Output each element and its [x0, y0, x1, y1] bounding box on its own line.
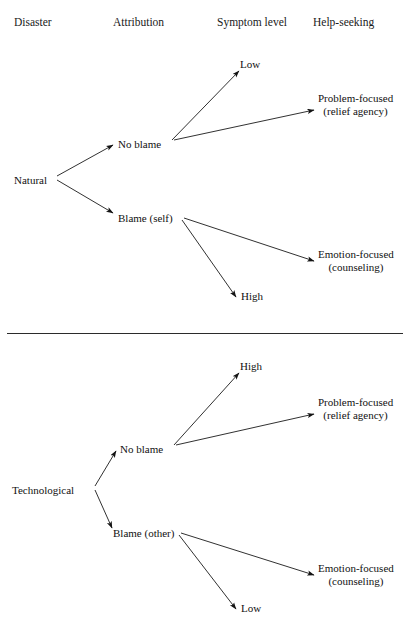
node-emotion-focused-2-line2: (counseling) [318, 575, 394, 588]
node-symptom-low: Low [240, 58, 260, 71]
edge-technological-to-blame-other [95, 490, 112, 528]
edge-no-blame-to-high [174, 373, 239, 445]
node-blame-self: Blame (self) [118, 212, 173, 225]
node-problem-focused-line1: Problem-focused [318, 92, 393, 104]
column-header-symptom-level: Symptom level [217, 16, 287, 29]
node-emotion-focused-line1: Emotion-focused [318, 248, 394, 260]
edge-blame-other-to-emotion-focused [181, 533, 314, 575]
column-header-disaster: Disaster [14, 16, 52, 29]
edge-blame-self-to-high [182, 220, 236, 297]
edge-natural-to-blame-self [57, 180, 113, 213]
scan-artifact-strip [0, 0, 410, 7]
edge-natural-to-no-blame [57, 145, 113, 176]
node-symptom-high: High [241, 290, 263, 303]
edge-technological-to-no-blame [95, 451, 116, 486]
column-header-help-seeking: Help-seeking [313, 16, 374, 29]
node-emotion-focused: Emotion-focused (counseling) [318, 248, 394, 273]
node-no-blame-2: No blame [120, 443, 163, 456]
node-symptom-low-2: Low [241, 602, 261, 615]
node-emotion-focused-2-line1: Emotion-focused [318, 562, 394, 574]
node-natural: Natural [14, 174, 47, 187]
node-problem-focused-2: Problem-focused (relief agency) [318, 396, 393, 421]
edge-no-blame-to-problem-focused [174, 110, 314, 140]
edge-blame-self-to-emotion-focused [184, 218, 314, 261]
figure-canvas: Disaster Attribution Symptom level Help-… [0, 0, 410, 621]
node-no-blame: No blame [118, 138, 161, 151]
node-problem-focused: Problem-focused (relief agency) [318, 92, 393, 117]
node-blame-other: Blame (other) [113, 527, 174, 540]
edge-no-blame-to-low [172, 71, 239, 140]
node-problem-focused-line2: (relief agency) [318, 105, 393, 118]
column-header-attribution: Attribution [113, 16, 164, 29]
node-technological: Technological [12, 484, 74, 497]
panel-divider [7, 333, 403, 334]
node-emotion-focused-line2: (counseling) [318, 261, 394, 274]
node-problem-focused-2-line1: Problem-focused [318, 396, 393, 408]
node-symptom-high-2: High [240, 360, 262, 373]
node-problem-focused-2-line2: (relief agency) [318, 409, 393, 422]
node-emotion-focused-2: Emotion-focused (counseling) [318, 562, 394, 587]
edge-no-blame-to-problem-focused-2 [176, 414, 314, 445]
edge-blame-other-to-low [179, 535, 236, 609]
